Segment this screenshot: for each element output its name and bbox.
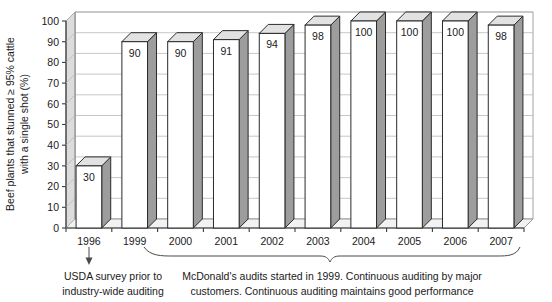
bar-front-face [122, 42, 148, 228]
down-arrow-icon-head [86, 258, 93, 266]
y-tick-label: 30 [47, 160, 59, 172]
y-axis-title-group: Beef plants that stunned ≥ 95% cattle wi… [4, 37, 30, 211]
bar-side-face [239, 31, 248, 228]
bar-1999[interactable] [122, 33, 157, 228]
bar-2005[interactable] [397, 12, 432, 228]
x-tick-label-2002: 2002 [260, 235, 284, 247]
bar-chart-3d: 0102030405060708090100 19961999200020012… [0, 0, 552, 302]
bar-front-face [397, 21, 423, 228]
curly-brace-icon [144, 247, 520, 262]
bar-value-label: 98 [312, 30, 324, 42]
bar-2006[interactable] [442, 12, 477, 228]
x-tick-marks-group [66, 228, 524, 232]
x-tick-label-2000: 2000 [169, 235, 193, 247]
y-tick-label: 50 [47, 118, 59, 130]
x-tick-label-2001: 2001 [215, 235, 239, 247]
bar-front-face [442, 21, 468, 228]
x-tick-label-1999: 1999 [123, 235, 147, 247]
usda-caption: USDA survey prior to industry-wide audit… [62, 270, 164, 297]
bar-front-face [259, 33, 285, 228]
y-tick-label: 40 [47, 139, 59, 151]
bar-front-face [488, 25, 514, 228]
y-tick-label: 70 [47, 77, 59, 89]
mcdonalds-caption: McDonald's audits started in 1999. Conti… [182, 270, 482, 297]
x-tick-label-2004: 2004 [352, 235, 376, 247]
x-tick-labels-group: 1996199920002001200220032004200520062007 [77, 235, 513, 247]
bar-1996[interactable] [76, 157, 111, 228]
y-axis-title-line2: with a single shot (%) [18, 74, 30, 175]
mcdonalds-caption-line2: customers. Continuous auditing maintains… [190, 285, 473, 297]
bar-front-face [351, 21, 377, 228]
bar-front-face [213, 40, 239, 228]
bar-2000[interactable] [168, 33, 203, 228]
y-tick-label: 80 [47, 56, 59, 68]
y-tick-label: 20 [47, 180, 59, 192]
x-axis: 1996199920002001200220032004200520062007 [66, 228, 524, 247]
bar-value-label: 94 [266, 38, 278, 50]
bar-2004[interactable] [351, 12, 386, 228]
usda-caption-line1: USDA survey prior to [64, 270, 162, 282]
bar-value-label: 90 [129, 47, 141, 59]
y-tick-label: 100 [41, 15, 59, 27]
bar-front-face [305, 25, 331, 228]
bar-2007[interactable] [488, 16, 523, 228]
y-tick-labels-group: 0102030405060708090100 [41, 15, 59, 234]
x-tick-label-2007: 2007 [489, 235, 513, 247]
y-tick-label: 90 [47, 36, 59, 48]
bar-side-face [193, 33, 202, 228]
bar-2003[interactable] [305, 16, 340, 228]
bar-value-label: 98 [495, 30, 507, 42]
bar-side-face [468, 12, 477, 228]
mcdonalds-caption-line1: McDonald's audits started in 1999. Conti… [182, 270, 482, 282]
y-tick-label: 60 [47, 98, 59, 110]
bar-side-face [422, 12, 431, 228]
bar-side-face [148, 33, 157, 228]
mcdonalds-brace-annotation [144, 247, 520, 262]
bar-value-label: 90 [175, 47, 187, 59]
bar-side-face [285, 24, 294, 228]
bar-front-face [168, 42, 194, 228]
chart-container: 0102030405060708090100 19961999200020012… [0, 0, 552, 302]
bar-side-face [331, 16, 340, 228]
bar-value-label: 30 [83, 171, 95, 183]
x-tick-label-2003: 2003 [306, 235, 330, 247]
bar-2002[interactable] [259, 24, 294, 228]
bar-side-face [102, 157, 111, 228]
x-tick-label-2006: 2006 [444, 235, 468, 247]
usda-arrow-annotation [86, 247, 93, 265]
bar-value-label: 100 [447, 26, 465, 38]
bar-side-face [514, 16, 523, 228]
y-tick-label: 10 [47, 201, 59, 213]
bar-value-label: 91 [220, 45, 232, 57]
bar-side-face [377, 12, 386, 228]
bar-2001[interactable] [213, 31, 248, 228]
y-axis-title-line1: Beef plants that stunned ≥ 95% cattle [4, 37, 16, 211]
bar-value-label: 100 [355, 26, 373, 38]
bar-value-label: 100 [401, 26, 419, 38]
usda-caption-line2: industry-wide auditing [62, 285, 164, 297]
y-tick-label: 0 [53, 222, 59, 234]
x-tick-label-1996: 1996 [77, 235, 101, 247]
x-tick-label-2005: 2005 [398, 235, 422, 247]
